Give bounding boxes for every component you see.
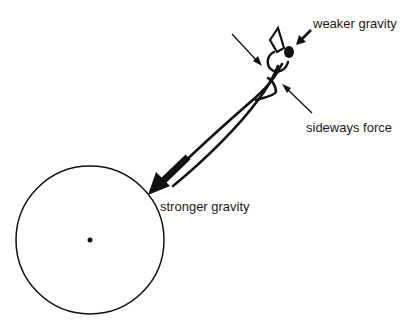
planet-center-dot — [88, 238, 93, 243]
body-tip-blob — [284, 46, 294, 58]
tidal-force-diagram — [0, 0, 408, 325]
squeeze-arrow-left — [232, 34, 262, 66]
weaker-gravity-arrow — [296, 30, 311, 45]
sideways-force-label: sideways force — [306, 121, 392, 134]
weaker-gravity-label: weaker gravity — [313, 17, 397, 30]
stronger-gravity-label: stronger gravity — [160, 200, 250, 213]
sideways-force-arrow — [282, 84, 312, 113]
stronger-gravity-arrow — [148, 157, 188, 195]
